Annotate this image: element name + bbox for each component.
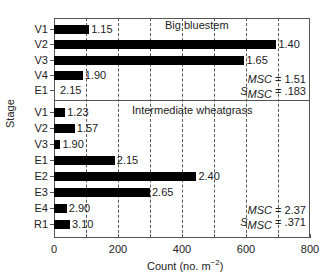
s-msc-stat-top: SMSC = .183 xyxy=(240,85,306,97)
x-tick-label: 0 xyxy=(39,243,69,255)
x-tick-label: 200 xyxy=(103,243,133,255)
x-tick xyxy=(54,234,55,238)
panel-title-intermediate-wheatgrass: Intermediate wheatgrass xyxy=(132,104,252,116)
y-category-label: V1 xyxy=(18,23,48,35)
y-category-label: V1 xyxy=(18,106,48,118)
y-tick xyxy=(50,44,54,45)
bar xyxy=(54,172,196,181)
y-axis-title: Stage xyxy=(4,99,16,128)
y-tick xyxy=(50,75,54,76)
y-tick xyxy=(50,160,54,161)
y-tick xyxy=(50,60,54,61)
grid-line xyxy=(118,18,119,238)
bar xyxy=(54,188,150,197)
bar-value-label: 1.90 xyxy=(62,138,83,150)
y-tick xyxy=(50,176,54,177)
bar-value-label: 2.15 xyxy=(60,84,81,96)
bar xyxy=(54,108,65,117)
x-tick xyxy=(86,234,87,238)
s-msc-stat-bottom: SMSC = .371 xyxy=(240,216,306,228)
x-tick xyxy=(310,234,311,238)
bar-value-label: 1.65 xyxy=(246,54,267,66)
y-tick xyxy=(50,90,54,91)
bar xyxy=(54,25,89,34)
y-tick xyxy=(50,144,54,145)
x-tick-label: 400 xyxy=(167,243,197,255)
y-tick xyxy=(50,112,54,113)
x-axis-title: Count (no. m−2) xyxy=(147,258,223,272)
bar-value-label: 1.15 xyxy=(91,23,112,35)
grid-line xyxy=(182,18,183,238)
y-tick xyxy=(50,128,54,129)
bar-value-label: 2.15 xyxy=(117,154,138,166)
x-tick xyxy=(246,234,247,238)
bar-value-label: 1.23 xyxy=(67,106,88,118)
chart: 1.151.401.651.902.151.231.571.902.152.40… xyxy=(0,0,335,279)
y-category-label: V4 xyxy=(18,69,48,81)
y-tick xyxy=(50,29,54,30)
bar xyxy=(54,220,70,229)
y-tick xyxy=(50,224,54,225)
bar xyxy=(54,71,83,80)
bar-value-label: 1.57 xyxy=(77,122,98,134)
x-tick xyxy=(150,234,151,238)
bar xyxy=(54,140,60,149)
x-tick-label: 600 xyxy=(231,243,261,255)
bar xyxy=(54,124,75,133)
y-category-label: E1 xyxy=(18,154,48,166)
y-tick xyxy=(50,208,54,209)
y-category-label: E2 xyxy=(18,170,48,182)
msc-stat-top: MSC = 1.51 xyxy=(248,73,306,85)
bar-value-label: 1.90 xyxy=(85,69,106,81)
y-category-label: V3 xyxy=(18,54,48,66)
bar-value-label: 2.65 xyxy=(152,186,173,198)
bar-value-label: 2.90 xyxy=(69,202,90,214)
grid-line xyxy=(150,18,151,238)
bar xyxy=(54,156,115,165)
bar xyxy=(54,40,276,49)
x-tick xyxy=(214,234,215,238)
grid-line xyxy=(214,18,215,238)
x-tick-label: 800 xyxy=(295,243,325,255)
x-tick xyxy=(182,234,183,238)
panel-title-big-bluestem: Big bluestem xyxy=(165,19,229,31)
y-category-label: V3 xyxy=(18,138,48,150)
y-category-label: E4 xyxy=(18,202,48,214)
bar xyxy=(54,56,244,65)
y-category-label: E3 xyxy=(18,186,48,198)
bar-value-label: 1.40 xyxy=(278,38,299,50)
bar-value-label: 2.40 xyxy=(198,170,219,182)
y-category-label: V2 xyxy=(18,122,48,134)
y-category-label: R1 xyxy=(18,218,48,230)
msc-stat-bottom: MSC = 2.37 xyxy=(248,204,306,216)
x-tick xyxy=(118,234,119,238)
y-category-label: E1 xyxy=(18,84,48,96)
bar-value-label: 3.10 xyxy=(72,218,93,230)
x-tick xyxy=(278,234,279,238)
bar xyxy=(54,204,67,213)
y-category-label: V2 xyxy=(18,38,48,50)
y-tick xyxy=(50,192,54,193)
